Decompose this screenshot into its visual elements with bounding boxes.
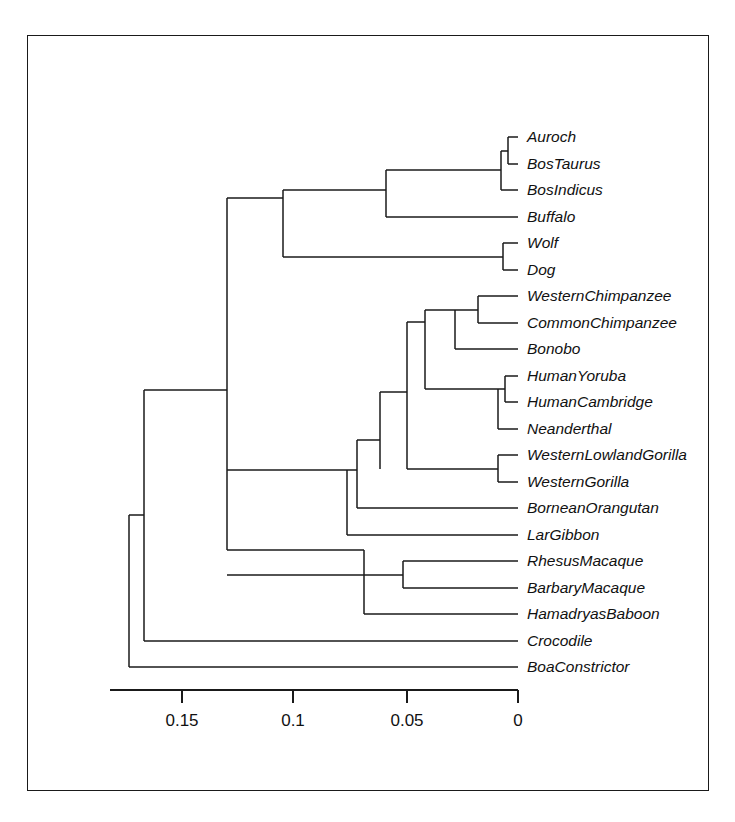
leaf-label-westernlowlandgorilla: WesternLowlandGorilla (527, 446, 687, 463)
phylogenetic-tree-figure: AurochBosTaurusBosIndicusBuffaloWolfDogW… (0, 0, 735, 822)
leaf-label-barbarymacaque: BarbaryMacaque (527, 579, 645, 596)
leaf-label-bostaurus: BosTaurus (527, 155, 601, 172)
leaf-label-borneanorangutan: BorneanOrangutan (527, 499, 659, 516)
leaf-label-dog: Dog (527, 261, 556, 278)
leaf-label-hamadryasbaboon: HamadryasBaboon (527, 605, 660, 622)
axis-tick-label-2: 0.05 (390, 711, 423, 730)
leaf-label-humanyoruba: HumanYoruba (527, 367, 626, 384)
axis-tick-label-3: 0 (513, 711, 522, 730)
tree-leaf-labels: AurochBosTaurusBosIndicusBuffaloWolfDogW… (526, 128, 687, 675)
leaf-label-bosindicus: BosIndicus (527, 181, 603, 198)
tree-canvas: AurochBosTaurusBosIndicusBuffaloWolfDogW… (0, 0, 735, 822)
leaf-label-neanderthal: Neanderthal (527, 420, 612, 437)
distance-axis: 0.150.10.050 (110, 690, 523, 730)
leaf-label-westerngorilla: WesternGorilla (527, 473, 630, 490)
leaf-label-crocodile: Crocodile (527, 632, 593, 649)
leaf-label-boaconstrictor: BoaConstrictor (527, 658, 630, 675)
leaf-label-buffalo: Buffalo (527, 208, 576, 225)
leaf-label-wolf: Wolf (527, 234, 560, 251)
leaf-label-bonobo: Bonobo (527, 340, 581, 357)
leaf-label-westernchimpanzee: WesternChimpanzee (527, 287, 672, 304)
leaf-label-rhesusmacaque: RhesusMacaque (527, 552, 644, 569)
leaf-label-auroch: Auroch (526, 128, 576, 145)
leaf-label-commonchimpanzee: CommonChimpanzee (527, 314, 677, 331)
leaf-label-largibbon: LarGibbon (527, 526, 599, 543)
axis-tick-label-1: 0.1 (281, 711, 305, 730)
tree-branches (129, 137, 518, 667)
leaf-label-humancambridge: HumanCambridge (527, 393, 653, 410)
axis-tick-label-0: 0.15 (165, 711, 198, 730)
